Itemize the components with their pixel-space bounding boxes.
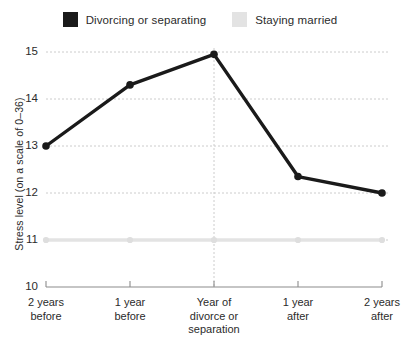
x-tick-label-1-year-after-line-2: after	[253, 310, 343, 324]
data-point-married-2	[211, 237, 217, 243]
x-tick-label-2-years-after-line-1: 2 years	[337, 296, 405, 310]
y-tick-label-11: 11	[12, 233, 38, 245]
x-tick-label-2-years-before-line-1: 2 years	[1, 296, 91, 310]
gridlines-horizontal	[46, 52, 390, 240]
x-tick-label-year-of-divorce: Year of divorce or separation	[169, 296, 259, 337]
y-tick-label-15: 15	[12, 45, 38, 57]
x-tick-label-1-year-before: 1 year before	[85, 296, 175, 323]
x-tick-label-1-year-before-line-2: before	[85, 310, 175, 324]
x-tick-label-2-years-after: 2 years after	[337, 296, 405, 323]
y-tick-label-10: 10	[12, 280, 38, 292]
x-tick-label-year-of-divorce-line-1: Year of	[169, 296, 259, 310]
series-staying-married	[43, 237, 385, 243]
data-point-divorcing-3	[294, 173, 302, 181]
data-point-divorcing-2	[210, 51, 218, 59]
x-axis	[46, 281, 382, 287]
y-tick-label-12: 12	[12, 186, 38, 198]
data-point-divorcing-1	[126, 81, 134, 89]
x-tick-label-1-year-before-line-1: 1 year	[85, 296, 175, 310]
y-tick-label-14: 14	[12, 92, 38, 104]
data-point-married-0	[43, 237, 49, 243]
data-point-married-1	[127, 237, 133, 243]
x-tick-label-year-of-divorce-line-3: separation	[169, 323, 259, 337]
x-tick-label-1-year-after: 1 year after	[253, 296, 343, 323]
x-tick-label-2-years-before-line-2: before	[1, 310, 91, 324]
data-point-divorcing-0	[42, 142, 50, 150]
data-point-married-3	[295, 237, 301, 243]
x-tick-label-2-years-before: 2 years before	[1, 296, 91, 323]
x-tick-label-2-years-after-line-2: after	[337, 310, 405, 324]
y-tick-label-13: 13	[12, 139, 38, 151]
x-tick-label-year-of-divorce-line-2: divorce or	[169, 310, 259, 324]
x-tick-label-1-year-after-line-1: 1 year	[253, 296, 343, 310]
data-point-married-4	[379, 237, 385, 243]
data-point-divorcing-4	[378, 189, 386, 197]
